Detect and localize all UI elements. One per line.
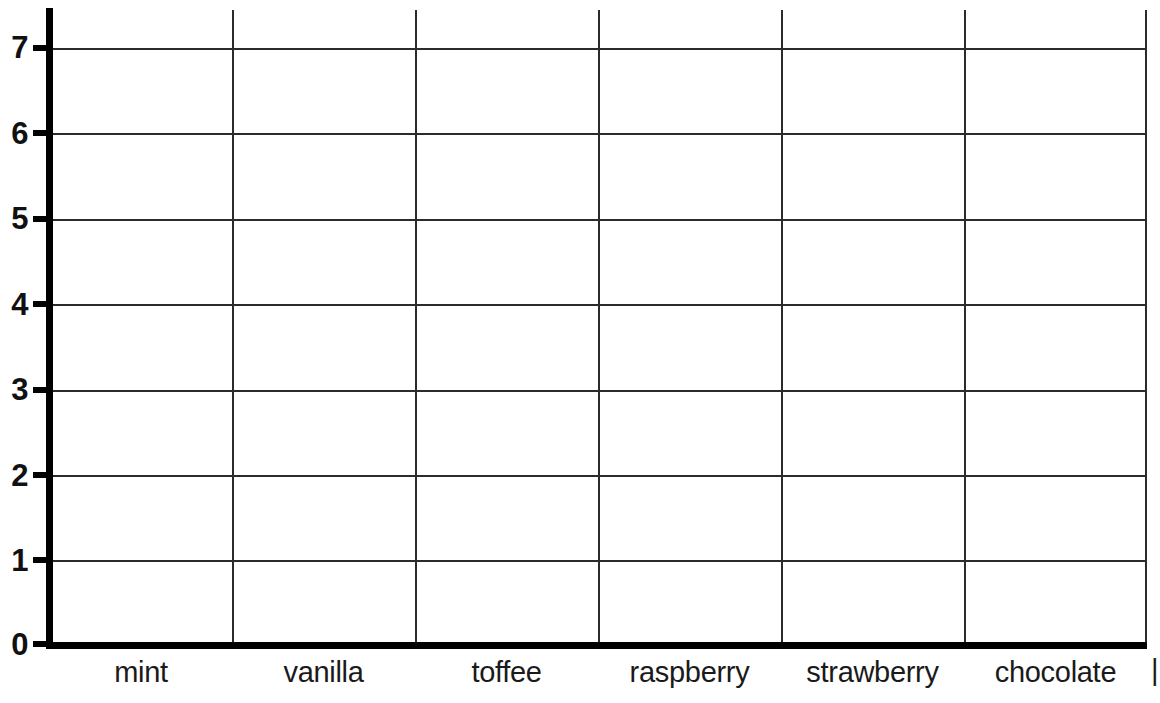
clipped-right-label-fragment: | <box>1151 656 1159 685</box>
y-tick-label-0: 0 <box>0 629 28 660</box>
y-tick-mark-7 <box>33 45 53 51</box>
x-category-label-vanilla: vanilla <box>232 658 415 687</box>
y-tick-mark-0 <box>33 641 53 647</box>
x-category-label-chocolate: chocolate <box>964 658 1147 687</box>
y-tick-mark-6 <box>33 130 53 136</box>
y-tick-label-3: 3 <box>0 374 28 405</box>
x-category-label-mint: mint <box>50 658 232 687</box>
x-category-label-strawberry: strawberry <box>781 658 964 687</box>
x-category-label-toffee: toffee <box>415 658 598 687</box>
y-tick-label-5: 5 <box>0 203 28 234</box>
plot-area <box>50 10 1147 645</box>
y-tick-label-1: 1 <box>0 545 28 576</box>
y-axis-spine <box>46 8 53 649</box>
y-tick-label-2: 2 <box>0 460 28 491</box>
y-tick-label-6: 6 <box>0 118 28 149</box>
bars-layer <box>50 10 1147 645</box>
y-tick-mark-2 <box>33 472 53 478</box>
y-tick-label-4: 4 <box>0 289 28 320</box>
y-tick-label-7: 7 <box>0 32 28 63</box>
y-tick-mark-1 <box>33 557 53 563</box>
y-tick-mark-3 <box>33 387 53 393</box>
x-category-label-raspberry: raspberry <box>598 658 781 687</box>
y-tick-mark-4 <box>33 301 53 307</box>
bar-chart-grid: 7 6 5 4 3 2 1 0 mint vanilla toffee rasp… <box>0 0 1160 703</box>
y-tick-mark-5 <box>33 216 53 222</box>
x-axis-spine <box>46 642 1147 649</box>
